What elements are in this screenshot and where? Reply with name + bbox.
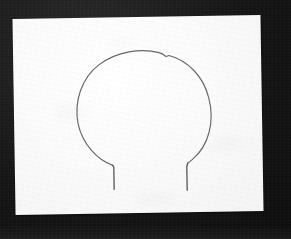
balloon-neck-left-path <box>113 165 114 189</box>
balloon-sketch <box>12 15 263 215</box>
balloon-neck-right-path <box>187 163 188 190</box>
paper-sheet <box>12 15 263 215</box>
photo-frame <box>0 0 291 239</box>
balloon-body-path <box>76 50 212 166</box>
